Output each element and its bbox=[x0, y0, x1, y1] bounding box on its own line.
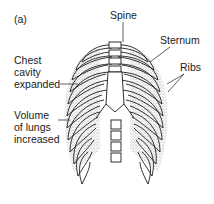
rib-cage-illustration bbox=[0, 0, 214, 204]
